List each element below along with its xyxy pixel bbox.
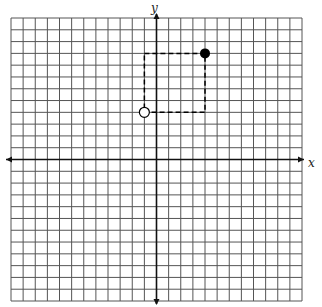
axes: [6, 13, 304, 305]
filled-point: [200, 48, 210, 58]
data-points: [139, 48, 210, 117]
dashed-rectangle: [144, 53, 205, 112]
y-axis-arrow-down-icon: [154, 299, 160, 305]
x-axis-arrow-left-icon: [6, 157, 12, 163]
open-point: [139, 107, 149, 117]
dashed-rectangle-outline: [144, 53, 205, 112]
x-axis-label: x: [308, 156, 315, 170]
y-axis-label: y: [150, 1, 158, 15]
coordinate-plane: x y: [0, 0, 322, 307]
x-axis-arrow-right-icon: [298, 157, 304, 163]
